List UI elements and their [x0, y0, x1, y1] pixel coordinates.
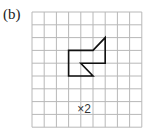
scale-factor-label: ×2: [77, 102, 91, 116]
grid-diagram: ×2: [0, 0, 151, 133]
shape-polygon: [69, 38, 106, 76]
